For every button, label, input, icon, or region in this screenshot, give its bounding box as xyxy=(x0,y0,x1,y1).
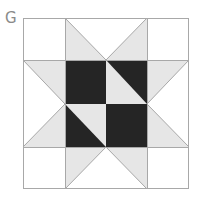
center-top-left-dark xyxy=(65,60,106,104)
quilt-block xyxy=(0,0,197,198)
center-bottom-right-dark xyxy=(106,104,147,147)
